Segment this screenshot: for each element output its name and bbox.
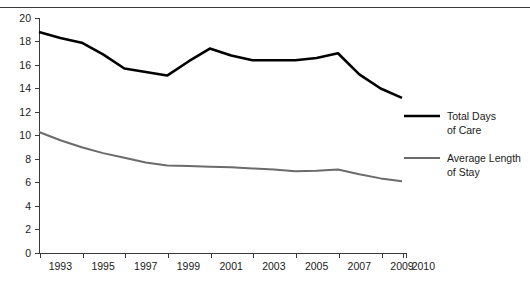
y-tick-label: 6 bbox=[25, 176, 31, 188]
data-series-group bbox=[39, 32, 402, 181]
legend-label-line1-0: Total Days bbox=[447, 110, 496, 122]
x-axis-tick-group: 1993199519971999200120032005200720092010 bbox=[40, 253, 435, 272]
x-tick-label: 2009 bbox=[390, 260, 414, 272]
x-tick-label: 2003 bbox=[262, 260, 286, 272]
y-tick-label: 0 bbox=[25, 247, 31, 259]
x-tick-label: 1993 bbox=[49, 260, 73, 272]
y-tick-label: 16 bbox=[19, 59, 31, 71]
y-tick-label: 8 bbox=[25, 153, 31, 165]
legend-label-line1-1: Average Length bbox=[447, 152, 521, 164]
x-tick-label: 1995 bbox=[91, 260, 115, 272]
y-tick-label: 12 bbox=[19, 106, 31, 118]
line-chart-svg: 02468101214161820 1993199519971999200120… bbox=[0, 0, 530, 283]
y-tick-label: 10 bbox=[19, 129, 31, 141]
legend-label-line2-0: of Care bbox=[447, 124, 482, 136]
x-tick-label: 2010 bbox=[412, 260, 436, 272]
series-line-average-length-of-stay bbox=[39, 132, 402, 181]
x-tick-label: 2007 bbox=[348, 260, 372, 272]
legend-label-line2-1: of Stay bbox=[447, 166, 480, 178]
x-tick-label: 1997 bbox=[134, 260, 158, 272]
chart-legend: Total Daysof CareAverage Lengthof Stay bbox=[404, 110, 521, 178]
series-line-total-days-of-care bbox=[39, 32, 402, 98]
y-tick-label: 4 bbox=[25, 200, 31, 212]
y-tick-label: 18 bbox=[19, 35, 31, 47]
chart-figure: 02468101214161820 1993199519971999200120… bbox=[0, 0, 530, 283]
y-tick-label: 14 bbox=[19, 82, 31, 94]
y-axis-tick-group: 02468101214161820 bbox=[19, 12, 39, 259]
y-tick-label: 20 bbox=[19, 12, 31, 24]
y-tick-label: 2 bbox=[25, 223, 31, 235]
x-tick-label: 2005 bbox=[305, 260, 329, 272]
x-tick-label: 1999 bbox=[177, 260, 201, 272]
x-tick-label: 2001 bbox=[219, 260, 243, 272]
